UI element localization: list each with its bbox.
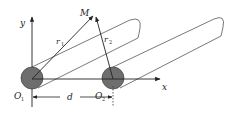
two-wire-line-diagram: y x M r 1 r 2 O 1 O 2 d xyxy=(0,0,239,113)
conductor-o1 xyxy=(21,67,43,89)
y-axis-label: y xyxy=(19,18,26,28)
distance-label: d xyxy=(67,92,73,102)
r1-subscript: 1 xyxy=(61,41,64,47)
o2-subscript: 2 xyxy=(102,96,105,102)
r2-subscript: 2 xyxy=(109,39,112,45)
cylinder-2 xyxy=(113,18,224,88)
point-m-label: M xyxy=(79,8,90,18)
vector-r1 xyxy=(32,16,93,79)
x-axis-label: x xyxy=(162,82,167,92)
vector-r2 xyxy=(96,17,113,79)
o1-subscript: 1 xyxy=(21,96,24,102)
